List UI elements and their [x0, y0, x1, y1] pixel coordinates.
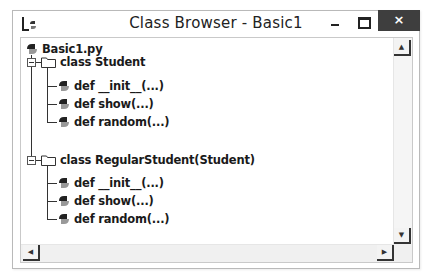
scrollbar-corner	[394, 244, 412, 262]
tree-item-label: Basic1.py	[42, 42, 102, 56]
collapse-toggle[interactable]	[27, 58, 36, 67]
scroll-left-button[interactable]: ◀	[23, 245, 40, 261]
minimize-button[interactable]	[324, 14, 346, 32]
python-method-icon	[57, 176, 71, 190]
tree-item-method[interactable]: def __init__(...)	[57, 176, 197, 190]
tree-item-method[interactable]: def show(...)	[57, 97, 197, 111]
python-method-icon	[57, 212, 71, 226]
tree-item-label: def show(...)	[74, 194, 154, 208]
close-button[interactable]: ×	[378, 10, 420, 31]
tree-item-label: def random(...)	[74, 212, 169, 226]
tree-item-module[interactable]: Basic1.py	[25, 42, 145, 56]
tree-connector	[47, 160, 48, 219]
tree-connector	[31, 55, 32, 160]
folder-icon	[41, 154, 56, 166]
python-file-icon	[25, 42, 39, 56]
scroll-right-button[interactable]: ▶	[377, 245, 394, 261]
collapse-toggle[interactable]	[27, 156, 36, 165]
close-icon: ×	[394, 12, 405, 27]
tree-connector	[47, 86, 57, 87]
tree-connector	[47, 201, 57, 202]
scroll-down-icon: ▼	[399, 231, 404, 239]
tree-item-method[interactable]: def show(...)	[57, 194, 197, 208]
scroll-down-button[interactable]: ▼	[394, 228, 411, 244]
tree-item-label: class Student	[60, 55, 145, 69]
scroll-right-icon: ▶	[382, 248, 387, 256]
python-method-icon	[57, 194, 71, 208]
tree-item-label: def __init__(...)	[74, 176, 164, 190]
tree-connector	[47, 183, 57, 184]
maximize-button[interactable]	[352, 14, 374, 32]
tree-item-class[interactable]: class Student	[41, 55, 201, 69]
python-method-icon	[57, 97, 71, 111]
python-method-icon	[57, 115, 71, 129]
tree-item-label: def __init__(...)	[74, 79, 164, 93]
class-browser-window: Class Browser - Basic1 ×	[12, 10, 420, 269]
tree-connector	[47, 122, 57, 123]
scroll-up-button[interactable]: ▲	[394, 40, 411, 56]
tree-connector	[47, 62, 48, 122]
tree-item-label: class RegularStudent(Student)	[60, 153, 255, 167]
tree-item-label: def show(...)	[74, 97, 154, 111]
tree-item-method[interactable]: def random(...)	[57, 212, 197, 226]
tree-connector	[47, 104, 57, 105]
tree-item-label: def random(...)	[74, 115, 169, 129]
horizontal-scrollbar[interactable]: ◀ ▶	[21, 244, 394, 262]
class-tree: Basic1.py class Student def __init__(...…	[21, 38, 393, 244]
python-method-icon	[57, 79, 71, 93]
tree-item-method[interactable]: def __init__(...)	[57, 79, 197, 93]
title-bar[interactable]: Class Browser - Basic1 ×	[13, 11, 419, 37]
scroll-up-icon: ▲	[399, 43, 404, 51]
class-tree-panel: Basic1.py class Student def __init__(...…	[20, 37, 413, 263]
tree-connector	[47, 219, 57, 220]
folder-icon	[41, 56, 56, 68]
tree-item-method[interactable]: def random(...)	[57, 115, 197, 129]
vertical-scrollbar[interactable]: ▲ ▼	[393, 38, 412, 244]
tree-item-class[interactable]: class RegularStudent(Student)	[41, 153, 261, 167]
scroll-left-icon: ◀	[28, 248, 33, 256]
